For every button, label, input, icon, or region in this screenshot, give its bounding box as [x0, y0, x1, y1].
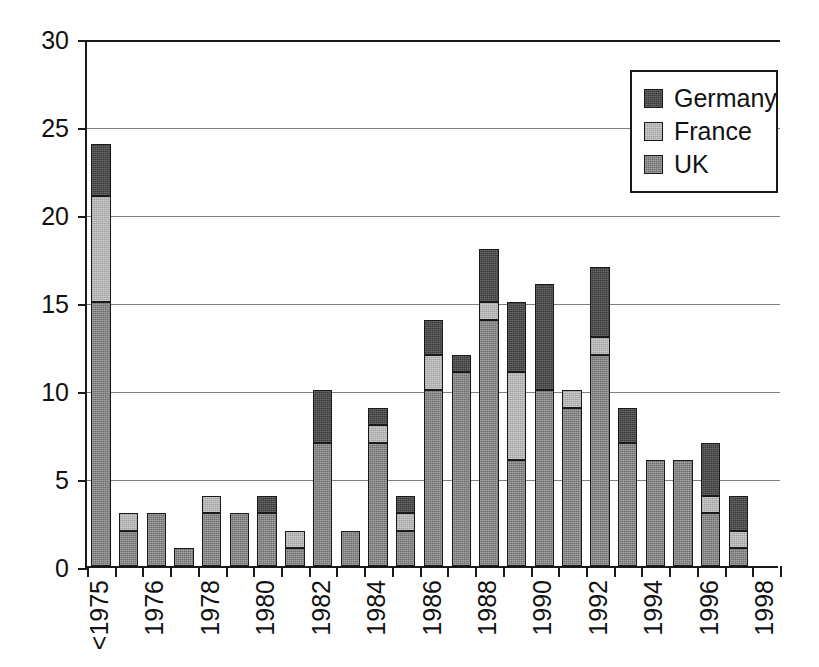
bar-segment-germany[interactable]: [91, 144, 110, 197]
bar-segment-uk[interactable]: [673, 460, 692, 566]
x-axis-label: 1988: [474, 580, 499, 636]
bar-segment-uk[interactable]: [119, 531, 138, 566]
x-axis-label: 1976: [142, 580, 167, 636]
bar-group[interactable]: [202, 496, 221, 566]
bar-group[interactable]: [590, 267, 609, 566]
bar-segment-germany[interactable]: [368, 408, 387, 426]
bar-segment-france[interactable]: [91, 196, 110, 302]
legend-item-france[interactable]: France: [644, 115, 758, 148]
bar-segment-uk[interactable]: [91, 302, 110, 566]
x-axis-tick: [115, 566, 117, 577]
bar-segment-uk[interactable]: [174, 548, 193, 566]
bar-segment-france[interactable]: [202, 496, 221, 514]
x-axis-tick: [531, 566, 533, 577]
x-axis-label: 1986: [419, 580, 444, 636]
bar-segment-france[interactable]: [368, 425, 387, 443]
x-axis-tick: [558, 566, 560, 577]
bar-segment-germany[interactable]: [701, 443, 720, 496]
x-axis-tick: [780, 566, 782, 577]
bar-group[interactable]: [452, 355, 471, 566]
x-axis-tick: [281, 566, 283, 577]
x-axis-label: 1998: [752, 580, 777, 636]
legend-item-uk[interactable]: UK: [644, 148, 758, 181]
bar-group[interactable]: [729, 496, 748, 566]
bar-segment-uk[interactable]: [257, 513, 276, 566]
bar-segment-germany[interactable]: [618, 408, 637, 443]
bar-segment-germany[interactable]: [257, 496, 276, 514]
bar-group[interactable]: [396, 496, 415, 566]
bar-group[interactable]: [174, 548, 193, 566]
bar-segment-uk[interactable]: [479, 320, 498, 566]
bar-segment-uk[interactable]: [285, 548, 304, 566]
legend-item-germany[interactable]: Germany: [644, 82, 758, 115]
y-axis-label: 0: [55, 556, 69, 581]
bar-segment-uk[interactable]: [341, 531, 360, 566]
bar-segment-germany[interactable]: [535, 284, 554, 390]
bar-segment-germany[interactable]: [729, 496, 748, 531]
bar-segment-uk[interactable]: [507, 460, 526, 566]
x-axis-label: 1994: [641, 580, 666, 636]
bar-group[interactable]: [313, 390, 332, 566]
bar-segment-france[interactable]: [562, 390, 581, 408]
bar-segment-germany[interactable]: [396, 496, 415, 514]
x-axis-tick: [142, 566, 144, 577]
x-axis-tick: [226, 566, 228, 577]
bar-segment-uk[interactable]: [701, 513, 720, 566]
bar-group[interactable]: [535, 284, 554, 566]
bar-segment-france[interactable]: [729, 531, 748, 549]
bar-group[interactable]: [673, 460, 692, 566]
bar-group[interactable]: [119, 513, 138, 566]
bar-group[interactable]: [701, 443, 720, 566]
bar-segment-uk[interactable]: [535, 390, 554, 566]
bar-segment-germany[interactable]: [590, 267, 609, 337]
x-axis-label: 1990: [530, 580, 555, 636]
bar-segment-france[interactable]: [701, 496, 720, 514]
bar-group[interactable]: [147, 513, 166, 566]
legend-label: Germany: [674, 86, 777, 111]
bar-group[interactable]: [618, 408, 637, 566]
legend-swatch-france: [644, 122, 663, 141]
bar-segment-uk[interactable]: [147, 513, 166, 566]
bar-segment-uk[interactable]: [424, 390, 443, 566]
bar-segment-uk[interactable]: [590, 355, 609, 566]
bar-segment-france[interactable]: [119, 513, 138, 531]
bar-segment-germany[interactable]: [479, 249, 498, 302]
bar-segment-uk[interactable]: [368, 443, 387, 566]
bar-segment-france[interactable]: [424, 355, 443, 390]
bar-segment-uk[interactable]: [618, 443, 637, 566]
bar-segment-france[interactable]: [396, 513, 415, 531]
bar-segment-france[interactable]: [507, 372, 526, 460]
bar-group[interactable]: [562, 390, 581, 566]
bar-group[interactable]: [285, 531, 304, 566]
x-axis-tick: [392, 566, 394, 577]
x-axis-label: 1978: [197, 580, 222, 636]
bar-group[interactable]: [341, 531, 360, 566]
bar-segment-uk[interactable]: [646, 460, 665, 566]
bar-segment-uk[interactable]: [452, 372, 471, 566]
bar-segment-france[interactable]: [590, 337, 609, 355]
gridline: [87, 40, 780, 42]
bar-segment-uk[interactable]: [313, 443, 332, 566]
bar-group[interactable]: [424, 320, 443, 566]
bar-group[interactable]: [368, 408, 387, 566]
bar-segment-germany[interactable]: [424, 320, 443, 355]
bar-segment-france[interactable]: [479, 302, 498, 320]
x-axis-label: 1984: [364, 580, 389, 636]
bar-segment-uk[interactable]: [230, 513, 249, 566]
bar-group[interactable]: [257, 496, 276, 566]
bar-segment-uk[interactable]: [729, 548, 748, 566]
bar-group[interactable]: [479, 249, 498, 566]
x-axis-label: 1982: [308, 580, 333, 636]
legend-label: France: [674, 119, 752, 144]
bar-group[interactable]: [91, 144, 110, 566]
bar-group[interactable]: [507, 302, 526, 566]
bar-segment-uk[interactable]: [202, 513, 221, 566]
bar-segment-germany[interactable]: [452, 355, 471, 373]
bar-segment-france[interactable]: [285, 531, 304, 549]
bar-segment-germany[interactable]: [313, 390, 332, 443]
bar-group[interactable]: [230, 513, 249, 566]
bar-segment-uk[interactable]: [396, 531, 415, 566]
bar-group[interactable]: [646, 460, 665, 566]
bar-segment-germany[interactable]: [507, 302, 526, 372]
bar-segment-uk[interactable]: [562, 408, 581, 566]
